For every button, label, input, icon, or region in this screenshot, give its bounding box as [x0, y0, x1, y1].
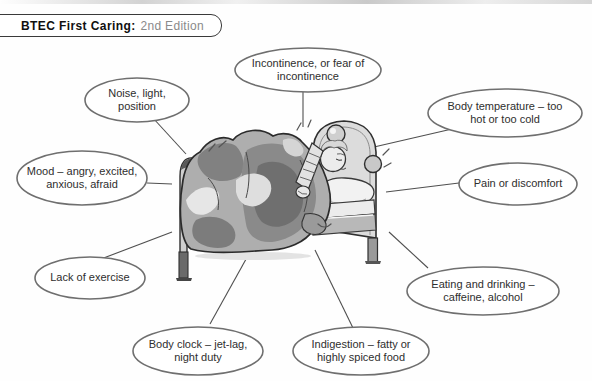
connector-pain	[386, 183, 459, 192]
spider-diagram-canvas	[0, 0, 592, 381]
bed-leg-left	[179, 252, 188, 278]
bubble-ellipse-mood	[17, 151, 147, 205]
connector-noise	[153, 118, 186, 154]
bubble-ellipse-indigestion	[293, 327, 429, 375]
connector-body-clock	[210, 252, 250, 324]
bubble-ellipse-noise	[85, 78, 189, 122]
bubble-ellipse-body-temp	[428, 89, 582, 137]
bubble-ellipse-incontinence	[235, 48, 381, 92]
headboard-knob-right	[365, 156, 382, 173]
connector-eating	[389, 232, 428, 268]
sleeper-hand	[296, 186, 310, 198]
connector-exercise	[101, 232, 172, 259]
book-page: BTEC First Caring: 2nd Edition	[0, 0, 592, 381]
bed-leg-right	[368, 238, 378, 262]
bubble-ellipse-pain	[459, 163, 577, 205]
connector-body-temp	[374, 129, 452, 147]
bed-shadow	[195, 252, 311, 260]
connector-mood	[147, 183, 172, 184]
bubble-ellipse-exercise	[35, 257, 145, 299]
bubble-ellipse-body-clock	[133, 327, 263, 375]
bed-illustration	[176, 120, 391, 281]
bubble-ellipse-eating	[407, 267, 559, 315]
sleeper-head	[321, 147, 346, 172]
connector-indigestion	[315, 250, 353, 328]
